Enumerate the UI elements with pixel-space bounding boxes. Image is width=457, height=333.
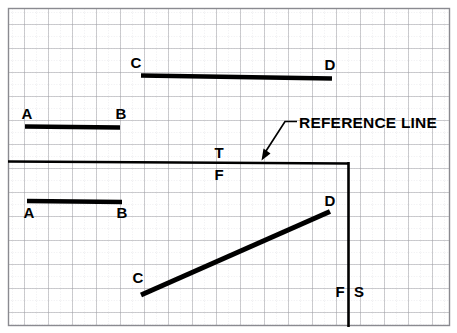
label-top-view-d: D	[325, 56, 336, 73]
label-top-view-c: C	[131, 54, 142, 71]
orthographic-projection-figure: C D A B T F REFERENCE LINE A B C D F S	[0, 0, 457, 333]
label-side-view-d: D	[325, 192, 336, 209]
label-front-view-upper-a: A	[22, 105, 33, 122]
front-view-lower-line-ab	[27, 201, 122, 202]
label-side-view-c: C	[133, 269, 144, 286]
drawing-canvas: C D A B T F REFERENCE LINE A B C D F S	[0, 0, 457, 333]
label-plane-front: F	[214, 166, 223, 183]
label-plane-top: T	[214, 144, 223, 161]
label-front-view-lower-a: A	[24, 204, 35, 221]
label-plane-front-bottom: F	[335, 283, 344, 300]
label-plane-side: S	[354, 283, 364, 300]
top-view-line-cd	[141, 76, 332, 79]
front-view-upper-line-ab	[25, 127, 120, 128]
label-front-view-lower-b: B	[117, 204, 128, 221]
grid-paper	[8, 8, 450, 326]
label-reference-line: REFERENCE LINE	[299, 114, 437, 131]
label-front-view-upper-b: B	[116, 105, 127, 122]
